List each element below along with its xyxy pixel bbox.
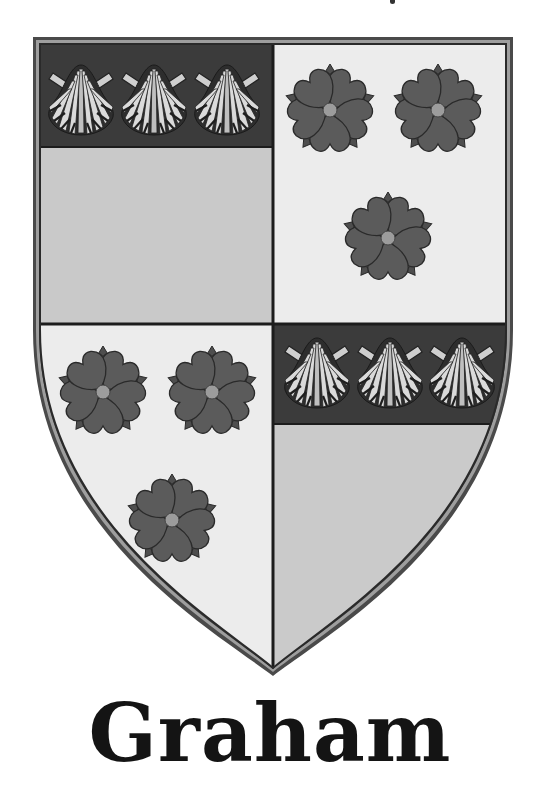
surname-title: Graham	[0, 688, 540, 778]
coat-of-arms: Graham	[0, 0, 540, 786]
shield	[0, 0, 540, 786]
